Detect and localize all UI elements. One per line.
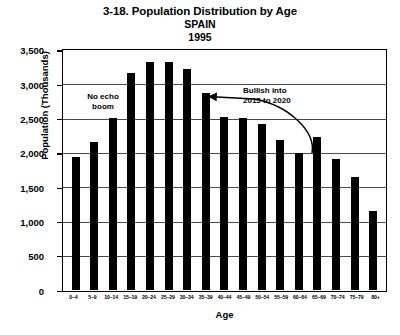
bar[interactable]	[332, 159, 340, 289]
chart-title-block: 3-18. Population Distribution by Age SPA…	[0, 4, 400, 44]
x-axis-tick-label: 55–59	[272, 294, 291, 300]
x-axis-tick-label: 20–24	[140, 294, 159, 300]
bar-slot	[122, 51, 141, 289]
y-axis-tick-mark	[57, 188, 62, 189]
bar-slot	[104, 51, 123, 289]
x-axis-tick-label: 30–34	[177, 294, 196, 300]
bar-slot	[85, 51, 104, 289]
x-axis-tick-label: 15–19	[121, 294, 140, 300]
bar[interactable]	[276, 140, 284, 290]
y-axis-title: Population (Thousands)	[39, 11, 50, 201]
y-axis-tick-mark	[57, 222, 62, 223]
bar[interactable]	[258, 124, 266, 290]
y-axis-tick-label: 1,500	[0, 182, 44, 193]
x-axis-tick-label: 70–74	[328, 294, 347, 300]
bar[interactable]	[90, 142, 98, 290]
bar[interactable]	[239, 118, 247, 290]
x-axis-tick-label: 60–64	[291, 294, 310, 300]
bar[interactable]	[220, 117, 228, 289]
bar[interactable]	[295, 153, 303, 290]
y-axis-tick-label: 3,000	[0, 79, 44, 90]
bar[interactable]	[183, 69, 191, 290]
bar[interactable]	[146, 62, 154, 290]
x-axis-tick-label: 35–39	[196, 294, 215, 300]
bar[interactable]	[72, 157, 80, 289]
bar-slot	[66, 51, 85, 289]
y-axis-tick-mark	[57, 291, 62, 292]
chart-subtitle: SPAIN	[0, 18, 400, 31]
page-title: 3-18. Population Distribution by Age	[0, 4, 400, 18]
bar-slot	[159, 51, 178, 289]
bar[interactable]	[202, 93, 210, 290]
x-axis-tick-label: 0–4	[64, 294, 83, 300]
bar[interactable]	[313, 137, 321, 290]
x-axis-tick-label: 5–9	[83, 294, 102, 300]
y-axis-tick-label: 3,500	[0, 45, 44, 56]
y-axis-tick-label: 0	[0, 285, 44, 296]
bar-slot	[141, 51, 160, 289]
bar-slot	[197, 51, 216, 289]
y-axis-tick-mark	[57, 153, 62, 154]
x-axis-title: Age	[62, 309, 387, 320]
y-axis-tick-mark	[57, 119, 62, 120]
x-axis-tick-label: 65–69	[309, 294, 328, 300]
x-axis-tick-labels: 0–45–910–1415–1920–2425–2930–3435–3940–4…	[62, 294, 387, 300]
chart-year: 1995	[0, 31, 400, 44]
annotation-bullish: Bullish into 2015 to 2020	[243, 86, 339, 106]
x-axis-tick-label: 75–79	[347, 294, 366, 300]
y-axis-tick-mark	[57, 256, 62, 257]
bar[interactable]	[351, 177, 359, 290]
y-axis-tick-label: 500	[0, 251, 44, 262]
bar-slot	[345, 51, 364, 289]
bar[interactable]	[109, 118, 117, 290]
x-axis-tick-label: 25–29	[158, 294, 177, 300]
x-axis-tick-label: 40–44	[215, 294, 234, 300]
y-axis-tick-label: 2,000	[0, 148, 44, 159]
x-axis-tick-label: 10–14	[102, 294, 121, 300]
bar[interactable]	[165, 62, 173, 290]
annotation-no-echo-boom: No echo boom	[72, 92, 134, 112]
y-axis-tick-label: 1,000	[0, 216, 44, 227]
x-axis-tick-label: 80+	[366, 294, 385, 300]
bar[interactable]	[369, 211, 377, 290]
y-axis-tick-mark	[57, 85, 62, 86]
y-axis-tick-label: 2,500	[0, 114, 44, 125]
x-axis-tick-label: 45–49	[234, 294, 253, 300]
bar-slot	[215, 51, 234, 289]
bar-slot	[178, 51, 197, 289]
y-axis-tick-mark	[57, 50, 62, 51]
x-axis-tick-label: 50–54	[253, 294, 272, 300]
bar-slot	[364, 51, 383, 289]
